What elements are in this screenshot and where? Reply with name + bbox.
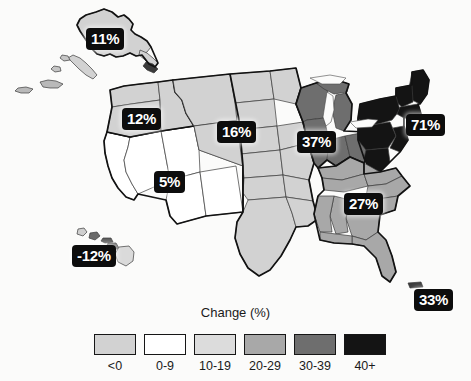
legend-swatch-lt0 bbox=[94, 334, 136, 355]
legend-label-0-9: 0-9 bbox=[156, 359, 174, 373]
state-new-mexico bbox=[200, 166, 243, 216]
state-kansas bbox=[241, 150, 283, 178]
state-texas bbox=[235, 197, 296, 276]
region-alaska bbox=[15, 9, 158, 93]
legend-label-lt0: <0 bbox=[108, 359, 122, 373]
legend-swatch-40plus bbox=[344, 334, 386, 355]
callout-hawaii: -12% bbox=[72, 245, 116, 267]
legend-swatch-30-39 bbox=[294, 334, 336, 355]
legend-items: <0 0-9 10-19 20-29 30-39 40+ bbox=[93, 334, 387, 373]
callout-southwest: 5% bbox=[154, 171, 185, 193]
legend-title: Change (%) bbox=[0, 305, 471, 320]
callout-northeast: 71% bbox=[406, 114, 445, 136]
legend-item-10-19: 10-19 bbox=[193, 334, 237, 373]
callout-mountain: 16% bbox=[217, 121, 256, 143]
state-north-dakota bbox=[230, 71, 274, 103]
legend-label-20-29: 20-29 bbox=[249, 359, 281, 373]
callout-alaska: 11% bbox=[86, 28, 124, 50]
legend-label-40plus: 40+ bbox=[354, 359, 375, 373]
region-southeast bbox=[314, 157, 410, 282]
state-hawaii-bigisland bbox=[115, 246, 134, 266]
state-hawaii-kauai bbox=[77, 228, 87, 236]
state-florida-panhandle bbox=[320, 232, 352, 244]
state-hawaii-molokai bbox=[101, 238, 113, 243]
legend-swatch-10-19 bbox=[194, 334, 236, 355]
legend-item-20-29: 20-29 bbox=[243, 334, 287, 373]
us-map-svg bbox=[0, 0, 471, 305]
callout-southeast: 27% bbox=[344, 193, 383, 215]
legend-item-30-39: 30-39 bbox=[293, 334, 337, 373]
state-hawaii-oahu bbox=[89, 232, 100, 240]
figure-root: 11% 12% 16% 5% 37% 71% 27% -12% 33% Chan… bbox=[0, 0, 471, 381]
state-minnesota bbox=[270, 68, 301, 104]
region-puerto-rico bbox=[408, 282, 423, 288]
state-alaska-aleutians-3 bbox=[15, 87, 33, 93]
legend-item-lt0: <0 bbox=[93, 334, 137, 373]
legend-item-40plus: 40+ bbox=[343, 334, 387, 373]
callout-northwest: 12% bbox=[122, 108, 161, 130]
legend-swatch-0-9 bbox=[144, 334, 186, 355]
legend-item-0-9: 0-9 bbox=[143, 334, 187, 373]
state-oklahoma bbox=[243, 175, 286, 200]
callout-midwest: 37% bbox=[297, 131, 336, 153]
legend-label-10-19: 10-19 bbox=[199, 359, 231, 373]
state-alaska-aleutians-2 bbox=[40, 80, 63, 88]
state-puerto-rico bbox=[408, 282, 423, 288]
state-alaska-aleutians-1 bbox=[68, 55, 97, 79]
state-alaska-island-a bbox=[60, 55, 70, 61]
legend-swatch-20-29 bbox=[244, 334, 286, 355]
legend: Change (%) <0 0-9 10-19 20-29 30-39 bbox=[0, 303, 471, 381]
legend-label-30-39: 30-39 bbox=[299, 359, 331, 373]
state-alaska-island-b bbox=[51, 66, 61, 72]
map-area: 11% 12% 16% 5% 37% 71% 27% -12% 33% bbox=[0, 0, 471, 305]
